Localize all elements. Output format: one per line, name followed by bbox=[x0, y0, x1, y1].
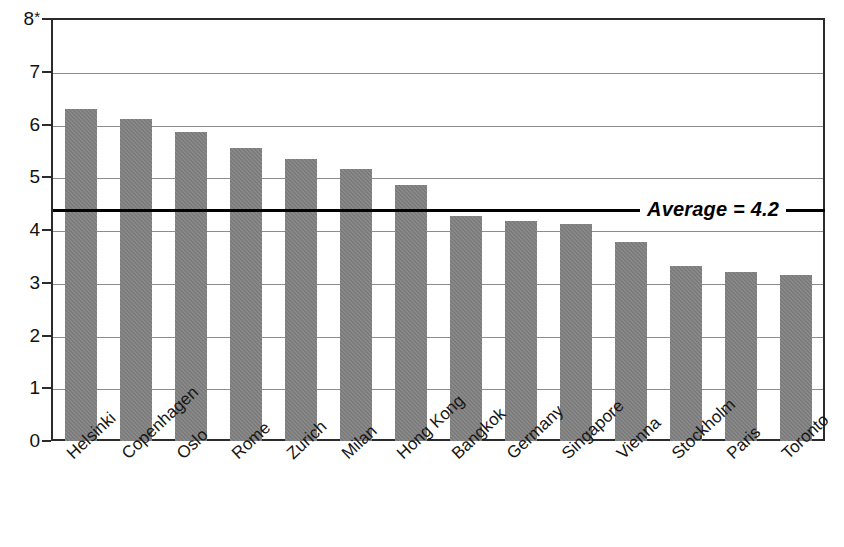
y-axis-tick bbox=[42, 335, 51, 337]
bar[interactable] bbox=[230, 148, 262, 441]
y-axis-tick bbox=[42, 229, 51, 231]
gridline bbox=[53, 284, 823, 285]
y-axis-tick bbox=[42, 176, 51, 178]
bar[interactable] bbox=[65, 109, 97, 441]
y-axis-tick-label: 7 bbox=[4, 62, 40, 81]
bar[interactable] bbox=[670, 266, 702, 441]
x-axis-labels: HelsinkiCopenhagenOsloRomeZurichMilanHon… bbox=[0, 441, 844, 547]
bar[interactable] bbox=[285, 159, 317, 441]
y-axis-tick-label: 2 bbox=[4, 326, 40, 345]
plot-area bbox=[51, 18, 825, 441]
average-line-label: Average = 4.2 bbox=[640, 198, 786, 220]
y-axis-tick-label: 3 bbox=[4, 273, 40, 292]
gridline bbox=[53, 231, 823, 232]
y-axis-tick-label: 4 bbox=[4, 220, 40, 239]
bar[interactable] bbox=[505, 221, 537, 441]
bar[interactable] bbox=[780, 275, 812, 441]
y-axis-tick-label: 8* bbox=[4, 9, 40, 28]
footnote-asterisk: * bbox=[34, 8, 40, 25]
y-axis-tick bbox=[42, 282, 51, 284]
bar[interactable] bbox=[120, 119, 152, 441]
gridline bbox=[53, 178, 823, 179]
gridline bbox=[53, 126, 823, 127]
y-axis-tick bbox=[42, 18, 51, 20]
gridline bbox=[53, 73, 823, 74]
y-axis-tick-label: 1 bbox=[4, 378, 40, 397]
y-axis-tick bbox=[42, 124, 51, 126]
gridline bbox=[53, 337, 823, 338]
y-axis-labels: 8*76543210 bbox=[0, 0, 40, 19]
y-axis-tick-label: 5 bbox=[4, 167, 40, 186]
y-axis-tick bbox=[42, 71, 51, 73]
bar[interactable] bbox=[560, 224, 592, 441]
y-axis-tick-label: 6 bbox=[4, 115, 40, 134]
gridline bbox=[53, 389, 823, 390]
y-axis-tick bbox=[42, 387, 51, 389]
bar-chart: 8*76543210 Average = 4.2 HelsinkiCopenha… bbox=[0, 0, 844, 547]
bar[interactable] bbox=[395, 185, 427, 441]
